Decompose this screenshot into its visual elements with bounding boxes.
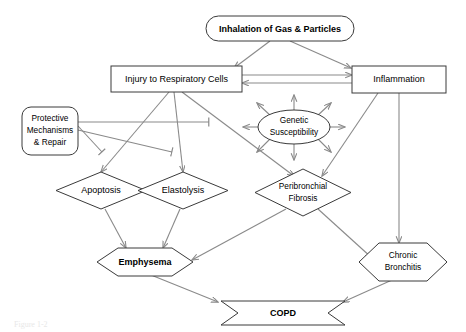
inhalation-label: Inhalation of Gas & Particles: [219, 24, 341, 34]
edge-inhalation-to-injury: [234, 41, 270, 68]
node-elastolysis[interactable]: Elastolysis: [138, 172, 228, 209]
figure-caption: Figure 1-2: [14, 320, 48, 329]
bronchitis-label-line1: Chronic: [389, 250, 418, 260]
node-apoptosis[interactable]: Apoptosis: [56, 172, 146, 209]
injury-label: Injury to Respiratory Cells: [125, 74, 229, 84]
fibrosis-label-line1: Peribronchial: [279, 181, 328, 191]
edge-protective-inhibits-apoptosis: [78, 126, 102, 152]
flowchart-canvas: Inhalation of Gas & Particles Injury to …: [0, 0, 466, 332]
copd-pathogenesis-diagram: Inhalation of Gas & Particles Injury to …: [0, 0, 466, 332]
protective-label-line3: & Repair: [34, 137, 67, 147]
inflammation-label: Inflammation: [373, 74, 425, 84]
apoptosis-label: Apoptosis: [81, 185, 121, 195]
emphysema-label: Emphysema: [118, 257, 172, 267]
fibrosis-label-line2: Fibrosis: [288, 193, 317, 203]
node-emphysema[interactable]: Emphysema: [97, 248, 193, 276]
node-genetic[interactable]: Genetic Susceptibility: [258, 110, 330, 144]
edge-bronchitis-to-copd: [343, 280, 392, 302]
node-injury[interactable]: Injury to Respiratory Cells: [111, 66, 242, 92]
edge-injury-to-apoptosis: [101, 92, 169, 172]
node-protective[interactable]: Protective Mechanisms & Repair: [22, 107, 78, 155]
edge-fibrosis-to-bronchitis: [318, 209, 372, 258]
node-inflammation[interactable]: Inflammation: [352, 66, 446, 93]
node-copd[interactable]: COPD: [221, 301, 345, 325]
protective-label-line1: Protective: [32, 113, 69, 123]
edge-inflammation-to-fibrosis: [322, 93, 378, 176]
node-bronchitis[interactable]: Chronic Bronchitis: [359, 243, 447, 281]
edge-fibrosis-to-emphysema: [192, 209, 286, 260]
protective-label-line2: Mechanisms: [27, 125, 74, 135]
edge-emphysema-to-copd: [151, 275, 218, 302]
edge-injury-to-elastolysis: [174, 92, 183, 172]
edge-apoptosis-to-emphysema: [105, 209, 126, 248]
genetic-label-line2: Susceptibility: [270, 127, 319, 137]
elastolysis-label: Elastolysis: [162, 185, 205, 195]
edge-inhalation-to-inflammation: [290, 41, 351, 68]
node-fibrosis[interactable]: Peribronchial Fibrosis: [255, 169, 351, 216]
genetic-label-line1: Genetic: [280, 115, 309, 125]
edge-elastolysis-to-emphysema: [163, 209, 180, 248]
node-inhalation[interactable]: Inhalation of Gas & Particles: [206, 16, 354, 41]
copd-label: COPD: [270, 308, 297, 318]
bronchitis-label-line2: Bronchitis: [385, 262, 421, 272]
